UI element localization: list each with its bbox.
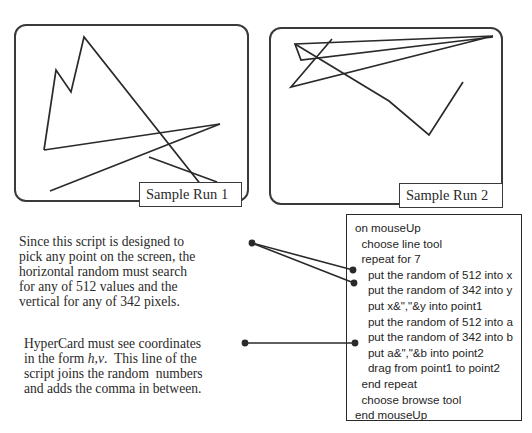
callout-dot	[242, 340, 247, 345]
code-line: put x&","&y into point1	[355, 298, 521, 314]
sample-run-2-caption: Sample Run 2	[399, 183, 503, 208]
drawn-line	[50, 124, 220, 191]
code-line: put the random of 512 into x	[355, 267, 521, 283]
code-line: repeat for 7	[355, 251, 521, 267]
coordinates-note-hv: h,v	[88, 351, 104, 366]
coordinates-note: HyperCard must see coordinates in the fo…	[24, 336, 203, 396]
drawn-line	[44, 37, 217, 204]
callout-line-random-x	[252, 243, 353, 270]
code-line: put the random of 342 into b	[355, 329, 521, 345]
code-line: put the random of 342 into y	[355, 282, 521, 298]
code-line: choose browse tool	[355, 392, 521, 408]
code-line: put a&","&b into point2	[355, 345, 521, 361]
code-line: on mouseUp	[355, 220, 521, 236]
script-code-box: on mouseUp choose line tool repeat for 7…	[346, 214, 522, 421]
code-line: put the random of 512 into a	[355, 314, 521, 330]
code-line: choose line tool	[355, 236, 521, 252]
sample-run-1-panel	[14, 24, 249, 202]
code-line: end mouseUp	[355, 407, 521, 423]
callout-dot	[249, 240, 254, 245]
code-line: drag from point1 to point2	[355, 360, 521, 376]
sample-run-2-drawing	[271, 29, 505, 207]
drawn-line	[291, 36, 493, 87]
sample-run-2-panel	[269, 27, 503, 205]
drawn-line	[44, 124, 220, 150]
sample-run-1-drawing	[16, 26, 251, 204]
code-line: end repeat	[355, 376, 521, 392]
random-range-note: Since this script is designed to pick an…	[19, 234, 195, 309]
sample-run-1-caption: Sample Run 1	[139, 182, 242, 207]
callout-line-random-y	[252, 243, 354, 283]
